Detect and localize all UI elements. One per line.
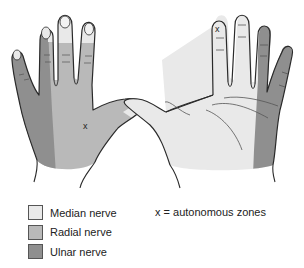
ulnar-region-palmar — [252, 0, 304, 200]
legend-label-radial: Radial nerve — [50, 226, 112, 238]
autonomous-zone-marker-palmar: x — [215, 24, 220, 34]
palmar-hand: x — [110, 0, 304, 200]
radial-swatch — [28, 225, 43, 240]
autonomous-zones-note: x = autonomous zones — [155, 206, 266, 218]
legend-label-median: Median nerve — [50, 207, 117, 219]
legend-label-ulnar: Ulnar nerve — [50, 246, 107, 258]
ulnar-swatch — [28, 244, 43, 259]
legend-item-ulnar: Ulnar nerve — [28, 242, 117, 262]
legend: Median nerve Radial nerve Ulnar nerve — [28, 203, 117, 262]
ulnar-region-dorsal — [0, 0, 56, 175]
legend-item-radial: Radial nerve — [28, 223, 117, 243]
median-swatch — [28, 205, 43, 220]
autonomous-zone-marker-dorsal: x — [83, 121, 88, 131]
legend-item-median: Median nerve — [28, 203, 117, 223]
